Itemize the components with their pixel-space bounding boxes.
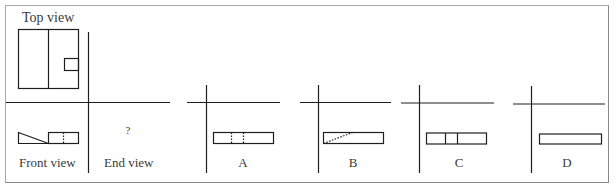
end-view-placeholder: ? [126,125,131,136]
option-a-label[interactable]: A [238,156,247,169]
end-view-label: End view [104,156,153,169]
orthographic-projection-drawing [0,0,616,192]
option-b-label[interactable]: B [349,156,358,169]
top-view-label: Top view [22,11,74,25]
front-view-label: Front view [19,156,76,169]
option-a-drawing[interactable] [187,85,280,173]
option-d-drawing[interactable] [513,86,605,173]
option-c-drawing[interactable] [401,85,494,173]
front-view-shape [19,133,79,144]
main-projection-axes [6,32,170,173]
option-d-label[interactable]: D [562,156,571,169]
option-b-drawing[interactable] [300,85,391,173]
option-c-label[interactable]: C [455,156,464,169]
top-view-shape [19,30,79,89]
